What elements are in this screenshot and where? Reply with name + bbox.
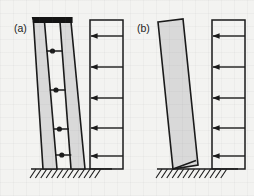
panels-layer: (a)(b) <box>14 18 245 179</box>
ground-hatch <box>52 169 58 178</box>
hinge-dot <box>57 126 62 131</box>
ground-hatch <box>57 169 63 178</box>
ground-hatch <box>194 169 200 178</box>
ground-hatch <box>221 169 227 178</box>
ground-hatch <box>73 169 79 178</box>
figure-canvas: (a)(b) <box>0 0 254 196</box>
right-pier <box>60 22 85 169</box>
ground-hatch <box>199 169 205 178</box>
ground-hatch <box>167 169 173 178</box>
load-box <box>90 20 123 169</box>
ground-hatch <box>41 169 47 178</box>
hinge-dot <box>59 152 64 157</box>
cap-beam <box>33 18 73 23</box>
ground-hatch <box>46 169 52 178</box>
ground-hatch <box>183 169 189 178</box>
ground-hatch <box>30 169 36 178</box>
ground-hatch <box>205 169 211 178</box>
ground-hatch <box>68 169 74 178</box>
ground-hatch <box>188 169 194 178</box>
panel-a: (a) <box>14 18 123 179</box>
left-pier <box>34 22 58 169</box>
ground-hatch <box>161 169 167 178</box>
shear-wall-diagram-svg: (a)(b) <box>0 0 254 196</box>
ground-hatch <box>62 169 68 178</box>
ground-hatch <box>95 169 101 178</box>
panel-b: (b) <box>137 19 245 178</box>
fixed-base-support-b <box>156 169 238 178</box>
lateral-load-diagram-a <box>90 20 123 169</box>
ground-hatch <box>156 169 162 178</box>
ground-hatch <box>178 169 184 178</box>
fixed-base-support-a <box>30 169 112 178</box>
cantilever-wall <box>158 19 198 169</box>
ground-hatch <box>215 169 221 178</box>
ground-hatch <box>79 169 85 178</box>
load-box <box>212 20 245 169</box>
hinge-dot <box>50 48 55 53</box>
ground-hatch <box>172 169 178 178</box>
ground-hatch <box>89 169 95 178</box>
panel-label-a: (a) <box>14 22 27 34</box>
wall-b <box>158 19 198 169</box>
lateral-load-diagram-b <box>212 20 245 169</box>
ground-hatch <box>35 169 41 178</box>
hinge-dot <box>53 87 58 92</box>
wall-a <box>33 18 86 170</box>
ground-hatch <box>210 169 216 178</box>
ground-hatch <box>84 169 90 178</box>
panel-label-b: (b) <box>137 22 150 34</box>
